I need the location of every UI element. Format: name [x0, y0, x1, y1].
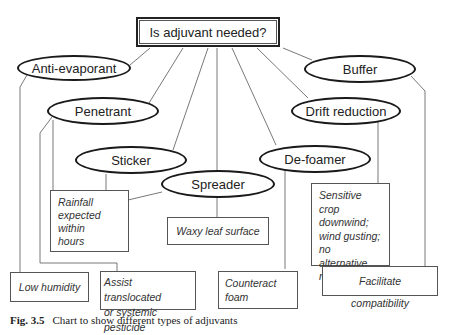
condition-box-low-humidity: Low humidity — [10, 272, 89, 302]
condition-box-sensitive: Sensitive crop downwind; wind gusting; n… — [311, 183, 390, 266]
condition-line: within — [58, 222, 121, 235]
oval-spreader: Spreader — [161, 170, 275, 198]
oval-label: Drift reduction — [306, 104, 387, 119]
oval-label: Anti-evaporant — [32, 61, 117, 76]
condition-box-assist: Assist translocated or systemic pesticid… — [100, 271, 196, 310]
condition-line: Sensitive crop — [319, 189, 382, 216]
condition-line: expected — [58, 209, 121, 222]
condition-line: downwind; — [319, 216, 382, 230]
condition-text: Facilitate compatibility — [351, 275, 409, 309]
figure-number: Fig. 3.5 — [10, 314, 45, 326]
oval-sticker: Sticker — [75, 146, 187, 174]
condition-text: Waxy leaf surface — [176, 225, 259, 237]
oval-buffer: Buffer — [304, 55, 416, 83]
oval-label: Buffer — [343, 62, 377, 77]
root-question-box: Is adjuvant needed? — [136, 17, 280, 47]
oval-label: Sticker — [111, 153, 151, 168]
oval-anti-evaporant: Anti-evaporant — [17, 55, 131, 81]
oval-drift-reduction: Drift reduction — [291, 97, 401, 125]
condition-line: Rainfall — [58, 196, 121, 209]
oval-label: Penetrant — [75, 104, 131, 119]
condition-line: wind gusting; — [319, 230, 382, 244]
figure-caption: Fig. 3.5Chart to show different types of… — [10, 314, 237, 326]
condition-line: Counteract — [225, 276, 291, 290]
condition-line: foam — [225, 290, 291, 304]
caption-text: Chart to show different types of adjuvan… — [53, 314, 238, 326]
oval-label: De-foamer — [284, 152, 345, 167]
condition-box-rainfall: Rainfall expected within hours — [50, 190, 129, 252]
condition-box-facilitate: Facilitate compatibility — [322, 266, 438, 296]
oval-label: Spreader — [191, 177, 244, 192]
condition-box-waxy: Waxy leaf surface — [167, 217, 269, 245]
condition-box-counteract: Counteract foam — [218, 271, 298, 309]
condition-line: hours — [58, 235, 121, 248]
oval-de-foamer: De-foamer — [259, 145, 371, 173]
root-question-label: Is adjuvant needed? — [149, 25, 266, 40]
oval-penetrant: Penetrant — [47, 97, 159, 125]
condition-line: Assist translocated — [104, 275, 192, 305]
condition-text: Low humidity — [19, 281, 80, 293]
